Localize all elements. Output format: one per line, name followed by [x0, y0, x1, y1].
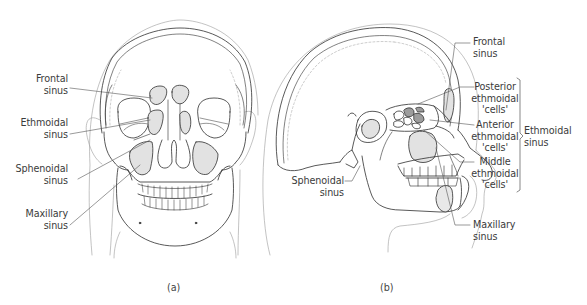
- label-line: ethmoidal: [470, 168, 520, 180]
- label-line: sinus: [8, 220, 68, 232]
- label-maxillary-sinus-b: Maxillary sinus: [473, 219, 533, 242]
- label-line: sinus: [8, 129, 68, 141]
- label-posterior-ethmoidal-cells: Posterior ethmoidal 'cells': [470, 81, 520, 116]
- label-line: Anterior: [470, 119, 520, 131]
- label-line: Sphenoidal: [282, 175, 344, 187]
- label-line: 'cells': [470, 142, 520, 154]
- label-sphenoidal-sinus-a: Sphenoidal sinus: [0, 163, 68, 186]
- label-line: sinus: [282, 187, 344, 199]
- label-line: sinus: [20, 85, 68, 97]
- label-sphenoidal-sinus-b: Sphenoidal sinus: [282, 175, 344, 198]
- label-line: 'cells': [470, 179, 520, 191]
- lateral-skull-drawing: [263, 24, 496, 255]
- caption-a: (a): [167, 282, 180, 293]
- label-maxillary-sinus-a: Maxillary sinus: [8, 208, 68, 231]
- label-line: Middle: [470, 156, 520, 168]
- label-line: sinus: [473, 231, 533, 243]
- caption-b: (b): [380, 282, 394, 293]
- label-line: Ethmoidal: [524, 125, 586, 137]
- label-line: ethmoidal: [470, 93, 520, 105]
- label-line: sinus: [473, 48, 533, 60]
- label-line: Sphenoidal: [0, 163, 68, 175]
- label-line: Ethmoidal: [8, 117, 68, 129]
- front-skull-drawing: [86, 20, 258, 258]
- label-line: ethmoidal: [470, 131, 520, 143]
- label-line: sinus: [524, 137, 586, 149]
- label-line: Frontal: [473, 36, 533, 48]
- label-frontal-sinus-a: Frontal sinus: [20, 73, 68, 96]
- label-ethmoidal-sinus-a: Ethmoidal sinus: [8, 117, 68, 140]
- label-line: 'cells': [470, 104, 520, 116]
- label-middle-ethmoidal-cells: Middle ethmoidal 'cells': [470, 156, 520, 191]
- label-line: Posterior: [470, 81, 520, 93]
- label-frontal-sinus-b: Frontal sinus: [473, 36, 533, 59]
- label-line: Maxillary: [473, 219, 533, 231]
- label-line: Maxillary: [8, 208, 68, 220]
- label-line: Frontal: [20, 73, 68, 85]
- label-line: sinus: [0, 175, 68, 187]
- label-ethmoidal-sinus-bracket: Ethmoidal sinus: [524, 125, 586, 148]
- label-anterior-ethmoidal-cells: Anterior ethmoidal 'cells': [470, 119, 520, 154]
